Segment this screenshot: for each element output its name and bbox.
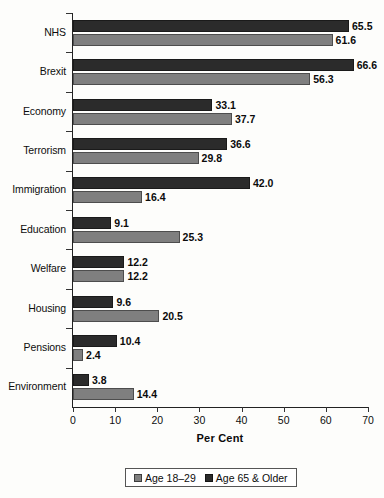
legend-item: Age 18–29: [134, 472, 196, 484]
bar: [73, 152, 199, 164]
x-axis-tick-label: 50: [269, 414, 299, 426]
bar: [73, 270, 124, 282]
bar: [73, 335, 117, 347]
x-axis-tick-label: 0: [58, 414, 88, 426]
bar-value-label: 42.0: [253, 177, 273, 189]
category-label: Welfare: [0, 263, 66, 274]
bar: [73, 388, 134, 400]
bar: [73, 177, 250, 189]
bar: [73, 20, 349, 32]
legend-item: Age 65 & Older: [205, 472, 288, 484]
bars-container: 65.561.666.656.333.137.736.629.842.016.4…: [73, 8, 384, 407]
legend-label: Age 18–29: [145, 472, 196, 484]
y-axis-tick: [66, 328, 72, 329]
x-axis-title: Per Cent: [72, 432, 368, 444]
x-axis-tick-label: 60: [311, 414, 341, 426]
category-label: Terrorism: [0, 145, 66, 156]
bar-value-label: 37.7: [235, 113, 255, 125]
x-axis-tick: [368, 407, 369, 412]
bar-value-label: 66.6: [357, 59, 377, 71]
bar-value-label: 29.8: [202, 152, 222, 164]
bar-value-label: 36.6: [230, 138, 250, 150]
x-axis-tick-label: 40: [227, 414, 257, 426]
y-axis-tick: [66, 289, 72, 290]
y-axis-tick: [66, 13, 72, 14]
x-axis-line: [72, 407, 368, 408]
bar-value-label: 3.8: [92, 374, 107, 386]
bar: [73, 256, 124, 268]
x-axis-tick: [242, 407, 243, 412]
x-axis-tick: [284, 407, 285, 412]
x-axis-tick-label: 30: [184, 414, 214, 426]
bar-value-label: 12.2: [127, 270, 147, 282]
bar-chart: NHSBrexitEconomyTerrorismImmigrationEduc…: [0, 0, 384, 498]
legend-swatch-icon: [134, 474, 142, 482]
x-axis-tick-label: 20: [142, 414, 172, 426]
bar-value-label: 61.6: [336, 34, 356, 46]
bar-value-label: 10.4: [120, 335, 140, 347]
legend-swatch-icon: [205, 474, 213, 482]
bar: [73, 349, 83, 361]
bar-value-label: 25.3: [183, 231, 203, 243]
bar-value-label: 14.4: [137, 388, 157, 400]
bar-value-label: 65.5: [352, 20, 372, 32]
y-axis-tick: [66, 52, 72, 53]
x-axis-tick-label: 10: [100, 414, 130, 426]
bar: [73, 374, 89, 386]
legend-label: Age 65 & Older: [216, 472, 288, 484]
bar: [73, 73, 310, 85]
y-axis-tick: [66, 171, 72, 172]
category-label: Housing: [0, 303, 66, 314]
x-axis-tick: [199, 407, 200, 412]
bar: [73, 34, 333, 46]
bar: [73, 217, 111, 229]
bar: [73, 138, 227, 150]
x-axis-tick: [73, 407, 74, 412]
bar: [73, 99, 212, 111]
category-label: Economy: [0, 106, 66, 117]
bar: [73, 191, 142, 203]
category-label: Education: [0, 224, 66, 235]
bar: [73, 310, 159, 322]
bar-value-label: 20.5: [162, 310, 182, 322]
bar-value-label: 9.1: [114, 217, 129, 229]
category-label: NHS: [0, 27, 66, 38]
plot-area: NHSBrexitEconomyTerrorismImmigrationEduc…: [0, 8, 384, 412]
category-axis-labels: NHSBrexitEconomyTerrorismImmigrationEduc…: [0, 8, 66, 407]
y-axis-tick: [66, 131, 72, 132]
x-axis-tick: [326, 407, 327, 412]
x-axis-tick-label: 70: [353, 414, 383, 426]
y-axis-tick: [66, 368, 72, 369]
chart-legend: Age 18–29Age 65 & Older: [125, 468, 297, 487]
category-label: Environment: [0, 381, 66, 392]
bar-value-label: 33.1: [215, 99, 235, 111]
bar: [73, 113, 232, 125]
bar: [73, 59, 354, 71]
bar-value-label: 56.3: [313, 73, 333, 85]
y-axis-tick: [66, 92, 72, 93]
category-label: Brexit: [0, 66, 66, 77]
category-label: Immigration: [0, 184, 66, 195]
category-label: Pensions: [0, 342, 66, 353]
bar-value-label: 12.2: [127, 256, 147, 268]
bar-value-label: 9.6: [116, 296, 131, 308]
y-axis-tick: [66, 210, 72, 211]
bar: [73, 231, 180, 243]
x-axis-tick: [157, 407, 158, 412]
bar-value-label: 16.4: [145, 191, 165, 203]
bar: [73, 296, 113, 308]
x-axis-tick: [115, 407, 116, 412]
bar-value-label: 2.4: [86, 349, 101, 361]
y-axis-tick: [66, 249, 72, 250]
